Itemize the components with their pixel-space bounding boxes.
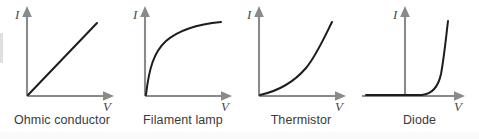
x-axis-label: V [335, 99, 345, 114]
caption-thermistor: Thermistor [242, 113, 360, 127]
curve-diode [366, 21, 448, 95]
x-axis-label: V [103, 99, 113, 114]
plot-diode: I V [360, 0, 479, 112]
y-axis-arrowhead [400, 6, 410, 17]
curve-ohmic-conductor [28, 23, 97, 95]
panel-diode: I V Diode [360, 0, 479, 139]
panel-ohmic-conductor: I V Ohmic conductor [0, 0, 124, 139]
iv-characteristics-figure: I V Ohmic conductor I V Filament lamp [0, 0, 479, 139]
y-axis-arrowhead [22, 6, 32, 17]
caption-diode: Diode [360, 113, 479, 127]
caption-ohmic-conductor: Ohmic conductor [0, 113, 124, 127]
y-axis-label: I [246, 7, 252, 22]
plot-ohmic-conductor: I V [0, 0, 124, 112]
y-axis-arrowhead [140, 6, 150, 17]
panel-filament-lamp: I V Filament lamp [124, 0, 242, 139]
x-axis-label: V [454, 99, 464, 114]
svg-filament-lamp: I V [124, 0, 242, 112]
x-axis-label: V [221, 99, 231, 114]
svg-diode: I V [360, 0, 479, 112]
y-axis-label: I [392, 7, 398, 22]
svg-thermistor: I V [242, 0, 360, 112]
svg-ohmic-conductor: I V [0, 0, 124, 112]
y-axis-label: I [132, 7, 138, 22]
caption-filament-lamp: Filament lamp [124, 113, 242, 127]
y-axis-label: I [14, 7, 20, 22]
plot-thermistor: I V [242, 0, 360, 112]
curve-thermistor [260, 22, 332, 95]
bottom-edge-band [0, 132, 479, 139]
curve-filament-lamp [146, 22, 221, 95]
plot-filament-lamp: I V [124, 0, 242, 112]
y-axis-arrowhead [254, 6, 264, 17]
panel-thermistor: I V Thermistor [242, 0, 360, 139]
